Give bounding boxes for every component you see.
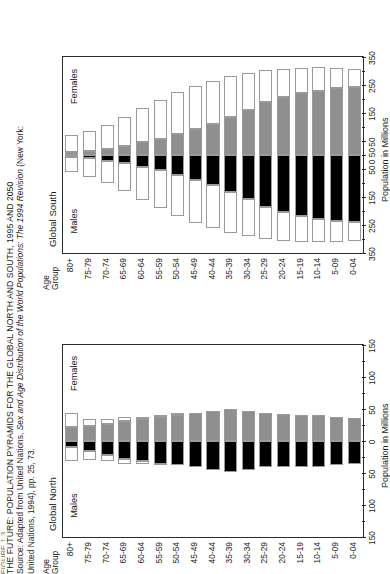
bar-segment-females-2050 <box>330 68 343 89</box>
axis-tick-minor <box>362 71 365 72</box>
age-group-label: 75-79 <box>84 542 93 574</box>
bar-segment-females-2050 <box>101 125 114 149</box>
axis-tick <box>362 505 366 506</box>
bar-segment-males-2050 <box>171 175 184 216</box>
axis-tick-minor <box>362 211 365 212</box>
caption-source-suffix: (New York: <box>15 126 25 167</box>
bar-segment-females-1995 <box>171 134 184 155</box>
bar-segment-males-1995 <box>83 441 96 451</box>
bar-segment-females-2050 <box>136 417 149 420</box>
males-side-label: Males <box>69 209 79 234</box>
bar-segment-females-2050 <box>118 417 131 421</box>
bar-segment-females-1995 <box>189 129 202 155</box>
bar-segment-males-2050 <box>330 221 343 242</box>
pyramid-bar <box>348 57 361 253</box>
bar-segment-males-2050 <box>312 219 325 243</box>
bar-segment-males-2050 <box>242 199 255 236</box>
axis-title: Population in Millions <box>380 117 390 202</box>
axis-tick-minor <box>362 489 365 490</box>
bar-segment-males-1995 <box>242 441 255 470</box>
pyramid-bar <box>171 57 184 253</box>
bar-segment-females-2050 <box>259 70 272 101</box>
axis-tick-minor <box>362 239 365 240</box>
bar-segment-females-2050 <box>242 73 255 109</box>
bar-segment-females-1995 <box>118 146 131 155</box>
bar-segment-males-2050 <box>277 212 290 240</box>
bar-segment-females-2050 <box>206 81 219 124</box>
axis-tick <box>362 57 366 58</box>
pyramid-bar <box>224 57 237 253</box>
axis-tick-label: 150 <box>367 332 377 360</box>
bar-segment-males-1995 <box>154 155 167 170</box>
pyramid-bar <box>101 345 114 537</box>
age-group-label: 5-09 <box>331 258 340 290</box>
age-group-label: 10-14 <box>313 258 322 290</box>
bar-segment-females-1995 <box>136 142 149 155</box>
bar-segment-females-1995 <box>295 415 308 441</box>
pyramid-bar <box>259 57 272 253</box>
bar-segment-females-1995 <box>312 91 325 155</box>
axis-tick <box>362 85 366 86</box>
caption-source-line1: Source: Adapted from United Nations, Sex… <box>15 0 26 574</box>
axis-tick <box>362 253 366 254</box>
bar-segment-females-1995 <box>277 97 290 155</box>
age-group-label: 35-39 <box>225 542 234 574</box>
axis-tick-label: 50 <box>367 460 377 488</box>
bar-segment-males-1995 <box>118 155 131 163</box>
axis-tick-label: 150 <box>367 100 377 128</box>
axis-tick-minor <box>362 425 365 426</box>
axis-tick-label: 250 <box>367 212 377 240</box>
axis-tick <box>362 197 366 198</box>
bar-segment-males-2050 <box>118 163 131 190</box>
bar-segment-males-1995 <box>189 155 202 180</box>
age-group-label: 20-24 <box>278 258 287 290</box>
age-group-label: 55-59 <box>155 258 164 290</box>
pyramid-bar <box>154 345 167 537</box>
pyramid-bar <box>101 57 114 253</box>
axis-tick-label: 50 <box>367 396 377 424</box>
bar-segment-males-2050 <box>295 216 308 242</box>
age-group-label: 70-74 <box>102 542 111 574</box>
age-group-label: 60-64 <box>137 542 146 574</box>
axis-tick-label: 150 <box>367 524 377 552</box>
caption-source-line2: United Nations, 1994), pp. 25, 73. <box>26 0 37 574</box>
bar-segment-males-1995 <box>277 441 290 467</box>
axis-tick <box>362 225 366 226</box>
age-group-label: 15-19 <box>296 258 305 290</box>
axis-tick <box>362 169 366 170</box>
caption-source-italic: Sex and Age Distribution of the World Po… <box>15 167 25 431</box>
bar-segment-males-2050 <box>136 461 149 464</box>
bar-segment-males-2050 <box>259 207 272 239</box>
axis-tick-minor <box>362 183 365 184</box>
bar-segment-females-1995 <box>330 88 343 155</box>
bar-segment-females-2050 <box>154 415 167 417</box>
bar-segment-females-2050 <box>83 131 96 151</box>
age-group-label: 50-54 <box>172 542 181 574</box>
pyramid-bar <box>330 345 343 537</box>
age-group-label: 80+ <box>66 542 75 574</box>
bar-segment-males-1995 <box>101 441 114 455</box>
bar-segment-females-1995 <box>101 424 114 441</box>
bar-segment-males-2050 <box>83 158 96 176</box>
bar-segment-males-2050 <box>118 459 131 464</box>
bar-segment-males-1995 <box>189 441 202 467</box>
bar-segment-females-2050 <box>83 419 96 425</box>
pyramid-bar <box>242 345 255 537</box>
axis-tick-label: 100 <box>367 364 377 392</box>
pyramid-bar <box>118 57 131 253</box>
axis-tick <box>362 409 366 410</box>
bar-segment-females-1995 <box>206 411 219 441</box>
bar-segment-males-2050 <box>101 161 114 183</box>
axis-tick-minor <box>362 457 365 458</box>
axis-tick-label: 350 <box>367 240 377 268</box>
age-group-label: 0-04 <box>349 258 358 290</box>
bar-segment-males-1995 <box>206 441 219 470</box>
age-group-axis: AgeGroup80+75-7970-7465-6960-6455-5950-5… <box>36 256 390 290</box>
bar-segment-females-2050 <box>65 413 78 427</box>
pyramid-bar <box>136 345 149 537</box>
age-group-label: 25-29 <box>260 542 269 574</box>
age-group-label: 0-04 <box>349 542 358 574</box>
age-group-label: 25-29 <box>260 258 269 290</box>
axis-tick-label: 100 <box>367 492 377 520</box>
pyramid-bar <box>136 57 149 253</box>
